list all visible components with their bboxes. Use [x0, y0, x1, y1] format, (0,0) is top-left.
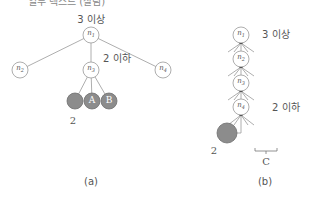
- node-sub: 4: [242, 104, 245, 110]
- node-sub: 1: [242, 32, 245, 38]
- annotation-b-n4: 2 이하: [272, 103, 300, 113]
- node-a-n2-label: n2: [16, 65, 24, 73]
- leaf-count-b: 2: [211, 146, 217, 156]
- node-sub: 4: [164, 67, 167, 73]
- bracket-c: [255, 148, 277, 154]
- node-a-n3-label: n3: [87, 65, 95, 73]
- caption-b: (b): [258, 177, 272, 187]
- node-sub: 2: [242, 56, 245, 62]
- node-b-n3-label: n3: [237, 78, 245, 86]
- leaf-a-blank: [67, 93, 83, 109]
- leaf-a-B-label: B: [106, 96, 113, 105]
- caption-a: (a): [84, 177, 98, 187]
- node-sub: 2: [21, 67, 24, 73]
- node-b-n4-label: n4: [237, 102, 245, 110]
- node-sub: 3: [242, 80, 245, 86]
- node-sub: 1: [92, 32, 95, 38]
- annotation-a-n3: 2 이하: [103, 54, 131, 64]
- node-b-n1-label: n1: [237, 30, 245, 38]
- annotation-b-n1: 3 이상: [262, 30, 290, 40]
- node-a-n4-label: n4: [159, 65, 167, 73]
- annotation-a-n1: 3 이상: [77, 15, 105, 25]
- leaf-b: [217, 123, 237, 143]
- node-a-n1-label: n1: [87, 30, 95, 38]
- leaf-a-A-label: A: [89, 96, 96, 105]
- bracket-c-label: C: [262, 157, 270, 167]
- node-sub: 3: [92, 67, 95, 73]
- leaf-count-a: 2: [70, 116, 76, 126]
- node-b-n2-label: n2: [237, 54, 245, 62]
